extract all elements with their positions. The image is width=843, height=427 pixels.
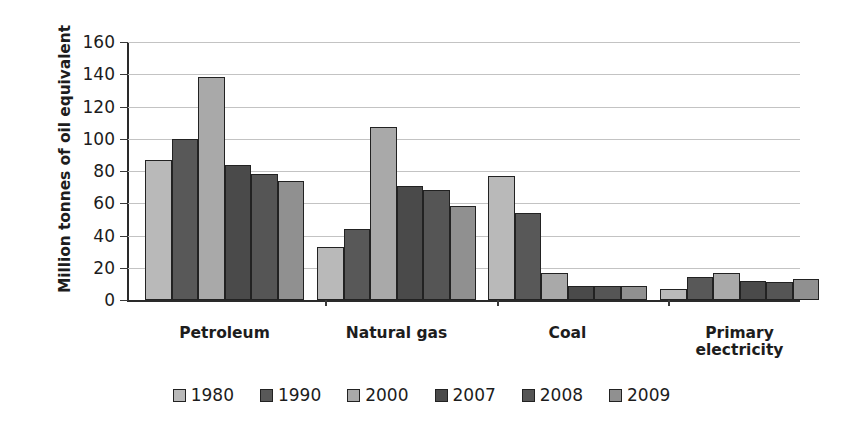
plot-area: 020406080100120140160 <box>127 42 800 300</box>
y-axis-tick-label: 100 <box>83 129 115 149</box>
y-axis-tick <box>120 236 128 237</box>
legend-swatch-icon <box>522 389 535 402</box>
bar <box>766 282 793 300</box>
y-axis-title: Million tonnes of oil equivalent <box>56 9 74 309</box>
y-axis-tick-label: 60 <box>93 193 115 213</box>
y-axis-tick <box>120 268 128 269</box>
legend-swatch-icon <box>173 389 186 402</box>
y-axis-tick <box>120 42 128 43</box>
legend-swatch-icon <box>260 389 273 402</box>
y-axis-tick <box>120 300 128 301</box>
gridline <box>127 139 800 140</box>
chart-legend: 198019902000200720082009 <box>0 385 843 405</box>
chart-page: Million tonnes of oil equivalent 0204060… <box>0 0 843 427</box>
legend-label: 2000 <box>365 385 408 405</box>
x-axis-category-label: Natural gas <box>317 325 477 342</box>
bar <box>450 206 477 300</box>
bar <box>515 213 542 300</box>
bar <box>740 281 767 300</box>
bar <box>145 160 172 300</box>
bar <box>621 286 648 301</box>
y-axis-tick <box>120 203 128 204</box>
x-axis-category-label: Coal <box>488 325 648 342</box>
bar <box>225 165 252 300</box>
bar <box>172 139 199 300</box>
legend-label: 2009 <box>627 385 670 405</box>
y-axis-tick-label: 20 <box>93 258 115 278</box>
bar <box>370 127 397 300</box>
bar <box>317 247 344 300</box>
legend-label: 1980 <box>191 385 234 405</box>
bar <box>793 279 820 300</box>
bar <box>278 181 305 300</box>
y-axis-tick <box>120 171 128 172</box>
gridline <box>127 74 800 75</box>
bar <box>687 277 714 300</box>
legend-item[interactable]: 2007 <box>435 385 496 405</box>
x-axis-group-separator <box>325 300 327 306</box>
y-axis-tick-label: 80 <box>93 161 115 181</box>
legend-item[interactable]: 1980 <box>173 385 234 405</box>
y-axis-tick-label: 140 <box>83 64 115 84</box>
legend-swatch-icon <box>347 389 360 402</box>
bar <box>541 273 568 300</box>
legend-item[interactable]: 2008 <box>522 385 583 405</box>
y-axis-tick-label: 0 <box>104 290 115 310</box>
x-axis-line <box>127 300 800 302</box>
bar <box>198 77 225 300</box>
bar <box>251 174 278 300</box>
legend-swatch-icon <box>609 389 622 402</box>
legend-item[interactable]: 2000 <box>347 385 408 405</box>
gridline <box>127 107 800 108</box>
y-axis-tick <box>120 74 128 75</box>
x-axis-category-label: Primary electricity <box>660 325 820 360</box>
x-axis-category-label: Petroleum <box>145 325 305 342</box>
gridline <box>127 42 800 43</box>
bar <box>488 176 515 300</box>
y-axis-tick-label: 160 <box>83 32 115 52</box>
legend-item[interactable]: 2009 <box>609 385 670 405</box>
legend-label: 2007 <box>453 385 496 405</box>
y-axis-tick-label: 120 <box>83 97 115 117</box>
x-axis-group-separator <box>668 300 670 306</box>
legend-label: 1990 <box>278 385 321 405</box>
legend-label: 2008 <box>540 385 583 405</box>
bar <box>344 229 371 300</box>
bar <box>660 289 687 300</box>
x-axis-group-separator <box>497 300 499 306</box>
bar <box>568 286 595 301</box>
legend-swatch-icon <box>435 389 448 402</box>
legend-item[interactable]: 1990 <box>260 385 321 405</box>
bar <box>713 273 740 300</box>
y-axis-tick <box>120 139 128 140</box>
bar <box>423 190 450 300</box>
bar <box>397 186 424 300</box>
y-axis-tick-label: 40 <box>93 226 115 246</box>
bar <box>594 286 621 301</box>
y-axis-tick <box>120 107 128 108</box>
